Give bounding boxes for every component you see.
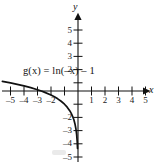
x-tick-label--2: –2 — [44, 96, 59, 105]
x-tick-label-2: 2 — [100, 96, 110, 105]
x-tick-label-3: 3 — [114, 96, 124, 105]
y-tick-label-5: 5 — [62, 26, 72, 35]
x-tick-label-4: 4 — [127, 96, 137, 105]
y-tick-label--4: –4 — [58, 139, 72, 148]
scan-artifact — [52, 150, 66, 155]
y-axis-arrowhead — [74, 13, 81, 20]
graph-figure: –5 –4 –3 –2 1 2 3 4 5 5 4 3 2 –2 –3 –4 –… — [0, 0, 156, 163]
x-tick-label-1: 1 — [87, 96, 97, 105]
y-tick-label-4: 4 — [62, 39, 72, 48]
y-axis-label: y — [73, 2, 77, 12]
x-axis-label: x — [149, 85, 153, 95]
y-tick-label--2: –2 — [58, 113, 72, 122]
y-tick-label--3: –3 — [58, 126, 72, 135]
coordinate-plane-svg — [0, 0, 156, 163]
y-tick-label-3: 3 — [62, 52, 72, 61]
function-label: g(x) = ln(–x) – 1 — [23, 66, 95, 77]
x-tick-label-5: 5 — [141, 96, 151, 105]
